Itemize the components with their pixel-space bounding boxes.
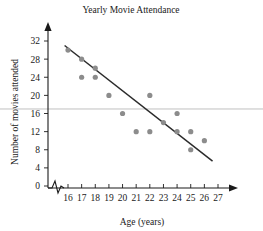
chart-title: Yearly Movie Attendance bbox=[82, 5, 179, 15]
y-tick-label: 16 bbox=[31, 109, 41, 119]
chart-container: Yearly Movie Attendance Number of movies… bbox=[0, 0, 263, 231]
data-point bbox=[161, 120, 166, 125]
data-point bbox=[174, 129, 179, 134]
x-tick-label: 17 bbox=[77, 193, 87, 203]
x-axis-label: Age (years) bbox=[120, 217, 165, 228]
x-tick-label: 16 bbox=[63, 193, 73, 203]
data-point bbox=[147, 93, 152, 98]
y-tick-label: 0 bbox=[35, 181, 40, 191]
trend-line-segment bbox=[65, 46, 213, 162]
x-tick-label: 19 bbox=[104, 193, 114, 203]
y-tick-label: 12 bbox=[31, 127, 41, 137]
y-axis-ticks: 048121620242832 bbox=[31, 36, 49, 191]
data-point bbox=[93, 66, 98, 71]
x-tick-label: 22 bbox=[145, 193, 155, 203]
x-tick-label: 18 bbox=[91, 193, 101, 203]
y-tick-label: 32 bbox=[31, 36, 41, 46]
x-axis-arrow bbox=[229, 184, 238, 191]
y-tick-label: 20 bbox=[31, 91, 41, 101]
data-point bbox=[65, 47, 70, 52]
data-point bbox=[79, 75, 84, 80]
y-tick-label: 24 bbox=[31, 73, 41, 83]
trend-line bbox=[65, 46, 213, 162]
data-point bbox=[188, 129, 193, 134]
scatter-plot: Yearly Movie Attendance Number of movies… bbox=[0, 0, 263, 231]
y-tick-label: 4 bbox=[35, 163, 40, 173]
data-point bbox=[106, 93, 111, 98]
x-tick-label: 21 bbox=[131, 193, 141, 203]
x-tick-label: 26 bbox=[200, 193, 210, 203]
data-point bbox=[120, 111, 125, 116]
data-point bbox=[134, 129, 139, 134]
data-point bbox=[147, 129, 152, 134]
x-tick-label: 20 bbox=[118, 193, 128, 203]
x-tick-label: 23 bbox=[159, 193, 169, 203]
x-axis-ticks: 161718192021222324252627 bbox=[63, 184, 223, 203]
y-tick-label: 8 bbox=[35, 145, 40, 155]
x-tick-label: 24 bbox=[172, 193, 182, 203]
y-axis-label: Number of movies attended bbox=[10, 59, 20, 165]
data-point bbox=[202, 138, 207, 143]
data-point bbox=[79, 57, 84, 62]
y-axis-arrow bbox=[44, 22, 51, 31]
data-point bbox=[174, 111, 179, 116]
data-point bbox=[93, 75, 98, 80]
x-tick-label: 27 bbox=[213, 193, 223, 203]
y-tick-label: 28 bbox=[31, 55, 41, 65]
data-point bbox=[188, 147, 193, 152]
x-tick-label: 25 bbox=[186, 193, 196, 203]
x-axis-break-icon bbox=[48, 181, 64, 193]
